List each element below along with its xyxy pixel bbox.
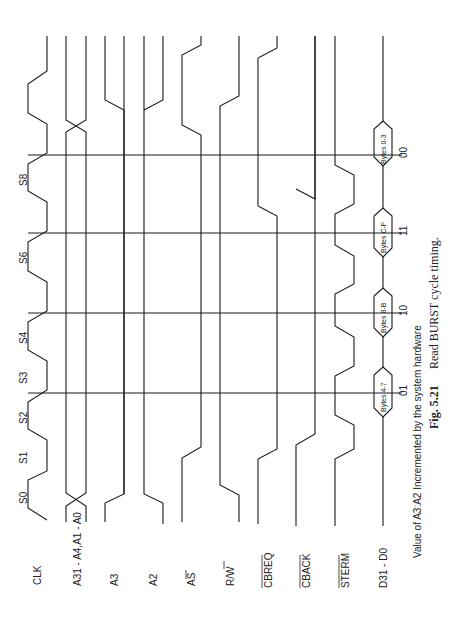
label-address-bus: A31 - A4,A1 - A0 [72,512,83,586]
state-s4: S4 [18,331,29,344]
label-a2: A2 [148,573,159,586]
cbreq-trace [258,36,277,524]
a3a2-value-00: 00 [398,146,409,158]
label-data-bus: D31 - D0 [378,548,389,588]
as-trace [182,36,201,522]
cback-trace-b [296,36,315,199]
a2-trace-b [144,36,163,110]
figure-caption: Fig. 5.21 Read BURST cycle timing. [427,237,441,429]
figure-number: Fig. 5.21 [427,385,441,429]
sample-lines [28,155,402,393]
label-rw: R/W [225,566,236,586]
label-clk: CLK [32,565,43,585]
state-s8: S8 [18,173,29,186]
label-sterm: STERM [340,553,351,588]
bytes-0-3: Bytes 0-3 [380,134,388,164]
a2-trace [144,36,163,524]
a3a2-values: 01 10 11 00 [398,146,409,396]
note-text: Value of A3:A2 Incremented by the system… [412,325,423,558]
bytes-4-7: Bytes 4-7 [380,382,388,412]
state-s2: S2 [18,411,29,424]
state-s6: S6 [18,251,29,264]
cback-trace [296,36,315,526]
state-s0: S0 [18,491,29,504]
state-labels: S0 S1 S2 S3 S4 S6 S8 [18,173,29,504]
label-as: AS [186,572,197,586]
bytes-8-b: Bytes 8-B [380,302,388,333]
a3-trace-b [105,36,124,494]
state-s1: S1 [18,451,29,464]
figure-title: Read BURST cycle timing. [427,237,441,369]
a3a2-value-11: 11 [398,225,409,236]
state-s3: S3 [18,371,29,384]
data-bus-trace [374,36,392,526]
bytes-c-f: Bytes C-F [380,222,388,253]
a3a2-value-01: 01 [398,384,409,396]
label-cback: CBACK [301,553,312,588]
label-a3: A3 [109,573,120,586]
a3a2-value-10: 10 [398,304,409,316]
rw-trace [220,36,239,522]
sterm-trace [335,36,354,526]
address-bus-trace [66,36,86,522]
timing-diagram: CLK A31 - A4,A1 - A0 A3 A2 AS R/W CBREQ … [0,0,465,618]
clk-trace [28,36,47,520]
label-cbreq: CBREQ [263,552,274,588]
